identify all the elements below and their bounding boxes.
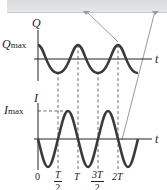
pointer-arrowhead-right: [152, 11, 159, 15]
q-axes: [34, 30, 152, 81]
i-max-sub: max: [8, 106, 24, 116]
tick-3half-T-num: 3T: [91, 170, 104, 182]
i-max-label: Imax: [4, 104, 24, 116]
pointer-line-i-zero: [122, 11, 155, 140]
tick-3half-T: 3T 2: [91, 170, 104, 190]
tick-T: T: [74, 172, 80, 182]
q-max-sub: max: [11, 40, 27, 50]
pointer-line-q-peak: [86, 11, 118, 42]
dashed-guides: [38, 45, 118, 170]
tick-2T: 2T: [112, 172, 123, 182]
tick-zero: 0: [35, 172, 40, 182]
lc-oscillation-graphs: [0, 0, 167, 190]
pointer-lines: [86, 11, 155, 140]
t-axis-label-top: t: [155, 53, 158, 65]
tick-half-T-num: T: [54, 170, 62, 182]
tick-half-T: T 2: [54, 170, 62, 190]
q-axis-label: Q: [32, 17, 41, 29]
q-max-label: Qmax: [2, 38, 26, 50]
tick-3half-T-den: 2: [95, 182, 100, 190]
q-max-main: Q: [2, 37, 11, 51]
t-axis-label-bottom: t: [155, 133, 158, 145]
i-axis-label: I: [34, 92, 38, 104]
tick-half-T-den: 2: [55, 182, 60, 190]
